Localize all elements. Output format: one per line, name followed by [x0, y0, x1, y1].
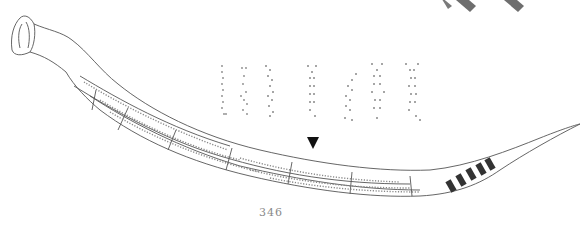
glyph-column-1	[221, 65, 227, 115]
triangle-marker-icon	[307, 137, 319, 149]
glyph-column-4	[307, 65, 317, 117]
glyph-column-6	[371, 63, 385, 119]
horn-engraving-bands	[84, 82, 420, 192]
page-number: 346	[259, 206, 283, 219]
diamond-ornaments	[440, 0, 524, 12]
horn-outline	[11, 16, 580, 196]
horn-illustration	[0, 0, 588, 225]
glyph-column-7	[405, 63, 421, 121]
glyph-column-3	[265, 65, 274, 117]
book-page: 346	[0, 0, 588, 225]
glyph-column-2	[240, 67, 248, 115]
glyph-columns	[221, 63, 421, 121]
glyph-column-5	[344, 73, 357, 121]
